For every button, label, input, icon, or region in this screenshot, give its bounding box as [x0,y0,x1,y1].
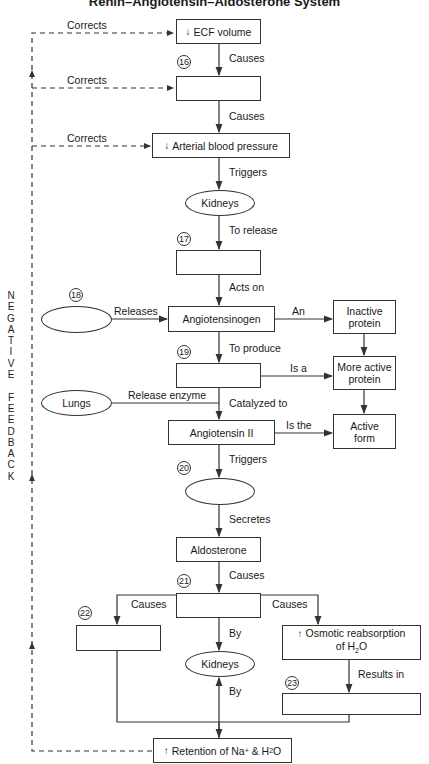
edge-label-corrects-3: Corrects [67,132,107,144]
edge-label-causes-right: Causes [272,598,308,610]
blank-oval-18[interactable] [41,306,112,333]
number-21-marker: 21 [177,574,191,588]
negative-feedback-label: NEGATIVE FEEDBACK [6,290,16,482]
blank-box-21[interactable] [176,593,261,618]
edge-label-by-1: By [229,627,241,639]
edge-label-to-release: To release [229,224,277,236]
edge-label-corrects-2: Corrects [67,74,107,86]
edge-label-releases: Releases [114,305,158,317]
edge-label-causes-3: Causes [229,569,265,581]
edge-label-results-in: Results in [358,668,404,680]
blank-box-16[interactable] [176,76,261,101]
number-20-marker: 20 [177,461,191,475]
edge-label-release-enzyme: Release enzyme [128,389,206,401]
edge-label-causes-2: Causes [229,110,265,122]
edge-label-is-the: Is the [286,419,312,431]
edge-label-triggers-2: Triggers [229,453,267,465]
angiotensinogen-box: Angiotensinogen [168,306,275,332]
up-arrow-icon: ↑ [164,745,169,757]
blank-box-22[interactable] [76,625,161,651]
up-arrow-icon: ↑ [298,628,303,639]
number-17-marker: 17 [177,232,191,246]
edge-label-is-a: Is a [290,362,307,374]
edge-label-an: An [292,305,305,317]
blank-box-17[interactable] [176,250,261,275]
more-active-protein-box: More active protein [333,356,396,390]
edge-label-acts-on: Acts on [229,281,264,293]
ecf-volume-box: ↓ ECF volume [176,19,261,44]
aldosterone-box: Aldosterone [176,537,261,562]
edge-label-catalyzed-to: Catalyzed to [229,397,287,409]
edge-label-to-produce: To produce [229,342,281,354]
number-16-marker: 16 [177,55,191,69]
down-arrow-icon: ↓ [186,26,191,38]
osmotic-reabsorption-box: ↑Osmotic reabsorption of H2O [282,625,421,660]
blank-box-19[interactable] [176,363,261,388]
edge-label-causes-left: Causes [131,598,167,610]
number-19-marker: 19 [177,345,191,359]
lungs-oval: Lungs [41,390,112,416]
number-18-marker: 18 [69,288,83,302]
active-form-box: Active form [333,414,396,449]
blank-oval-20[interactable] [185,478,255,505]
kidneys-oval-1: Kidneys [185,190,255,216]
down-arrow-icon: ↓ [164,140,169,152]
retention-box: ↑ Retention of Na+ & H2O [153,738,292,763]
kidneys-oval-2: Kidneys [185,651,255,677]
number-22-marker: 22 [78,606,92,620]
edge-label-triggers-1: Triggers [229,166,267,178]
angiotensin-ii-box: Angiotensin II [168,420,275,445]
arterial-blood-pressure-box: ↓ Arterial blood pressure [152,133,290,158]
edge-label-by-2: By [229,685,241,697]
edge-label-corrects-1: Corrects [67,19,107,31]
inactive-protein-box: Inactive protein [333,300,396,334]
blank-box-23[interactable] [282,693,421,715]
number-23-marker: 23 [285,676,299,690]
edge-label-causes-1: Causes [229,52,265,64]
edge-label-secretes: Secretes [229,513,270,525]
